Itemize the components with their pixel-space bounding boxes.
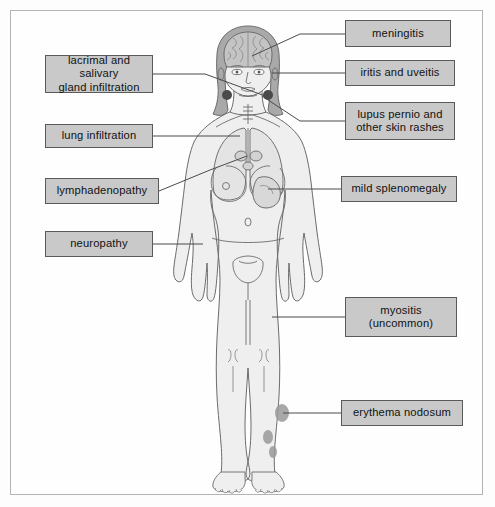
callout-lymphadenopathy[interactable]: lymphadenopathy [45, 178, 159, 204]
callout-label: meningitis [372, 27, 424, 41]
connector-meningitis [252, 34, 345, 56]
callout-lung-infiltration[interactable]: lung infiltration [45, 124, 153, 148]
callout-lupus-pernio[interactable]: lupus pernio and other skin rashes [345, 102, 455, 140]
callout-lacrimal-salivary[interactable]: lacrimal and salivary gland infiltration [45, 55, 153, 93]
callout-label: iritis and uveitis [360, 66, 439, 80]
callout-label: lupus pernio and other skin rashes [356, 108, 444, 135]
callout-myositis[interactable]: myositis (uncommon) [345, 297, 457, 337]
callout-label: neuropathy [70, 237, 127, 251]
callout-mild-splenomegaly[interactable]: mild splenomegaly [341, 176, 457, 202]
callout-label: erythema nodosum [353, 406, 451, 420]
callout-label: mild splenomegaly [351, 182, 446, 196]
connector-lupus-pernio [262, 96, 345, 121]
callout-meningitis[interactable]: meningitis [345, 20, 451, 47]
sarcoidosis-diagram: lacrimal and salivary gland infiltration… [0, 0, 495, 507]
callout-erythema-nodosum[interactable]: erythema nodosum [341, 400, 463, 426]
connector-lacrimal-salivary [153, 74, 268, 97]
connector-lymphadenopathy [159, 156, 247, 191]
callout-iritis-uveitis[interactable]: iritis and uveitis [345, 60, 455, 86]
callout-label: lacrimal and salivary gland infiltration [50, 54, 148, 95]
callout-label: lung infiltration [62, 129, 137, 143]
callout-label: myositis (uncommon) [369, 304, 433, 331]
callout-label: lymphadenopathy [57, 184, 148, 198]
callout-neuropathy[interactable]: neuropathy [45, 231, 153, 257]
